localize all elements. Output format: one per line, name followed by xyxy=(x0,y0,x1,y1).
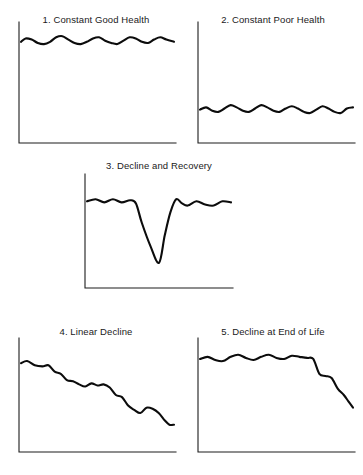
panel-plot-area xyxy=(187,14,359,148)
axis-frame xyxy=(19,338,176,452)
panel-constant-poor-health: 2. Constant Poor Health xyxy=(187,14,359,148)
panel-linear-decline: 4. Linear Decline xyxy=(8,326,184,462)
trace-health xyxy=(21,361,174,425)
trace-health xyxy=(200,355,353,408)
panel-plot-area xyxy=(187,326,359,462)
axis-frame xyxy=(85,174,233,288)
trace-health xyxy=(200,105,353,113)
axis-frame xyxy=(198,22,355,143)
trace-health xyxy=(21,36,174,44)
panel-decline-and-recovery: 3. Decline and Recovery xyxy=(76,160,242,292)
axis-frame xyxy=(198,338,355,452)
trace-health xyxy=(87,199,231,263)
health-trajectory-figure: 1. Constant Good Health 2. Constant Poor… xyxy=(0,0,363,475)
panel-plot-area xyxy=(8,326,184,462)
panel-constant-good-health: 1. Constant Good Health xyxy=(8,14,184,148)
panel-decline-at-end-of-life: 5. Decline at End of Life xyxy=(187,326,359,462)
panel-plot-area xyxy=(8,14,184,148)
panel-plot-area xyxy=(76,160,242,292)
